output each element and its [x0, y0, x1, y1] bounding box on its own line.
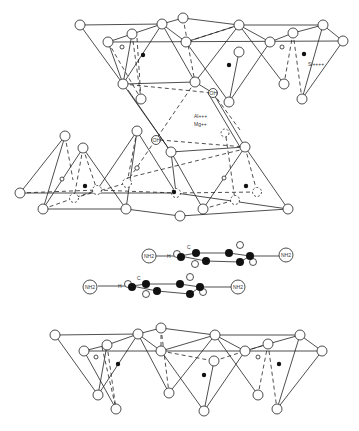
- aluminum-label: Al+++: [194, 113, 207, 119]
- upper-silicon-atoms: [141, 52, 306, 67]
- bottom-oxygens: [50, 323, 327, 416]
- magnesium-label: Mg++: [194, 121, 207, 127]
- hydroxyl-label-2: OH: [153, 137, 161, 143]
- svg-text:C: C: [137, 275, 141, 281]
- svg-text:NH2: NH2: [281, 252, 291, 258]
- bottom-silicon-atoms: [116, 362, 281, 377]
- clay-structure-diagram: OH OH Si++++ Al+++ Mg++: [0, 0, 359, 431]
- svg-text:NH2: NH2: [144, 253, 154, 259]
- hydroxyl-groups: OH OH: [152, 89, 218, 145]
- svg-text:NH2: NH2: [233, 284, 243, 290]
- silicon-label: Si++++: [308, 61, 324, 67]
- svg-text:H: H: [167, 253, 171, 259]
- intercalated-molecule-1: NH2 NH2 H C: [83, 274, 245, 299]
- svg-text:NH2: NH2: [85, 284, 95, 290]
- svg-text:C: C: [187, 244, 191, 250]
- intercalated-molecule-2: NH2 NH2 H C: [142, 242, 293, 268]
- hydroxyl-label-1: OH: [210, 90, 218, 96]
- svg-text:H: H: [118, 283, 122, 289]
